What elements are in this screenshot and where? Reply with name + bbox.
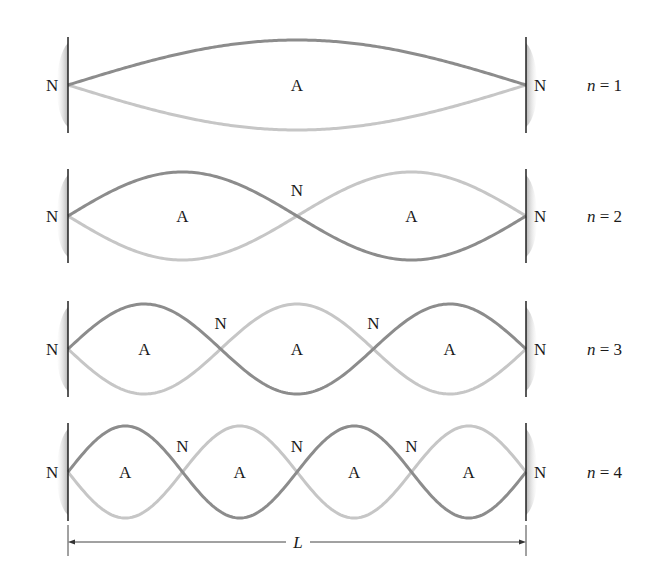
mode-3: NNAAANNn = 3 (46, 301, 622, 397)
mode-label: n = 4 (587, 463, 623, 482)
arrowhead-right-icon (519, 540, 526, 545)
left-wall-shading (57, 307, 68, 391)
node-label-interior: N (176, 437, 188, 456)
antinode-label: A (444, 340, 457, 359)
node-label-interior: N (367, 314, 379, 333)
antinode-label: A (348, 463, 361, 482)
length-dimension: L (68, 525, 526, 556)
antinode-label: A (463, 463, 476, 482)
node-label-left: N (46, 207, 58, 226)
mode-label: n = 3 (587, 340, 622, 359)
node-label-right: N (534, 76, 546, 95)
antinode-label: A (234, 463, 247, 482)
antinode-label: A (405, 207, 418, 226)
modes-layer: NNAn = 1NNAANn = 2NNAAANNn = 3NNAAAANNNn… (46, 37, 623, 521)
mode-4: NNAAAANNNn = 4 (46, 423, 623, 521)
node-label-interior: N (291, 437, 303, 456)
left-wall-shading (57, 175, 68, 257)
mode-label: n = 2 (587, 207, 622, 226)
mode-1: NNAn = 1 (46, 37, 622, 133)
antinode-label: A (176, 207, 189, 226)
diagram-svg: NNAn = 1NNAANn = 2NNAAANNn = 3NNAAAANNNn… (0, 0, 666, 579)
antinode-label: A (291, 340, 304, 359)
node-label-left: N (46, 76, 58, 95)
node-label-left: N (46, 340, 58, 359)
node-label-left: N (46, 463, 58, 482)
antinode-label: A (138, 340, 151, 359)
length-label: L (292, 533, 302, 552)
left-wall-shading (57, 429, 68, 515)
antinode-label: A (291, 76, 304, 95)
node-label-right: N (534, 340, 546, 359)
node-label-interior: N (215, 314, 227, 333)
node-label-interior: N (405, 437, 417, 456)
node-label-right: N (534, 207, 546, 226)
antinode-label: A (119, 463, 132, 482)
mode-2: NNAANn = 2 (46, 169, 622, 263)
node-label-interior: N (291, 181, 303, 200)
node-label-right: N (534, 463, 546, 482)
mode-label: n = 1 (587, 76, 622, 95)
left-wall-shading (57, 43, 68, 127)
standing-wave-diagram: NNAn = 1NNAANn = 2NNAAANNn = 3NNAAAANNNn… (0, 0, 666, 579)
arrowhead-left-icon (68, 540, 75, 545)
